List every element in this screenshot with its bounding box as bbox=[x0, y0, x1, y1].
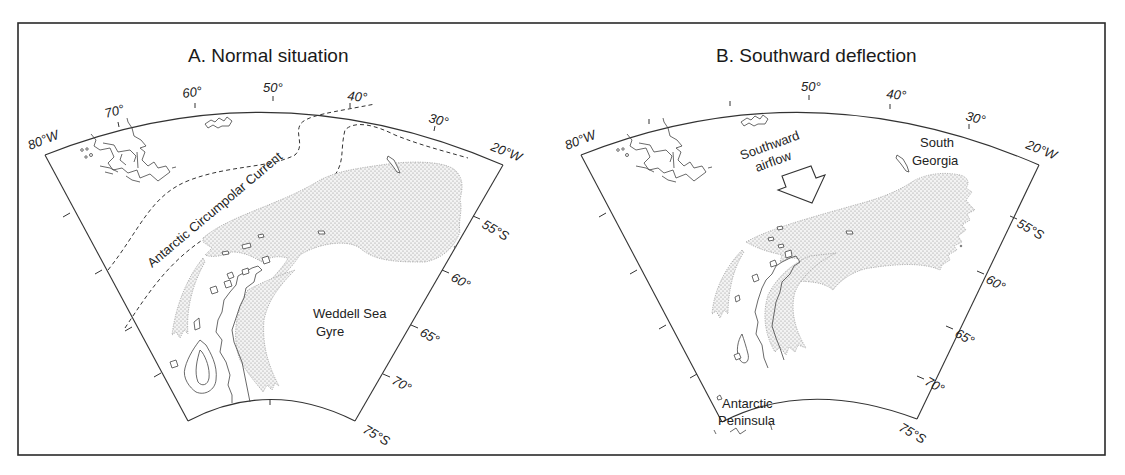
figure: A. Normal situation bbox=[0, 0, 1125, 475]
lon-label-60: 60° bbox=[181, 83, 203, 101]
lon-label-50: 50° bbox=[263, 80, 283, 95]
gyre-label-line2: Gyre bbox=[316, 324, 344, 339]
lon-label-40: 40° bbox=[347, 88, 368, 105]
south-georgia-label-line2: Georgia bbox=[912, 153, 959, 168]
peninsula-label-line1: Antarctic bbox=[722, 396, 773, 411]
gyre-label-line1: Weddell Sea bbox=[313, 306, 387, 321]
lon-label-50: 50° bbox=[801, 79, 821, 94]
panel-a-title: A. Normal situation bbox=[188, 45, 349, 66]
south-georgia-label-line1: South bbox=[920, 135, 954, 150]
lon-label-40: 40° bbox=[886, 86, 907, 103]
peninsula-label-line2: Peninsula bbox=[718, 413, 776, 428]
panel-b-title: B. Southward deflection bbox=[716, 45, 917, 66]
